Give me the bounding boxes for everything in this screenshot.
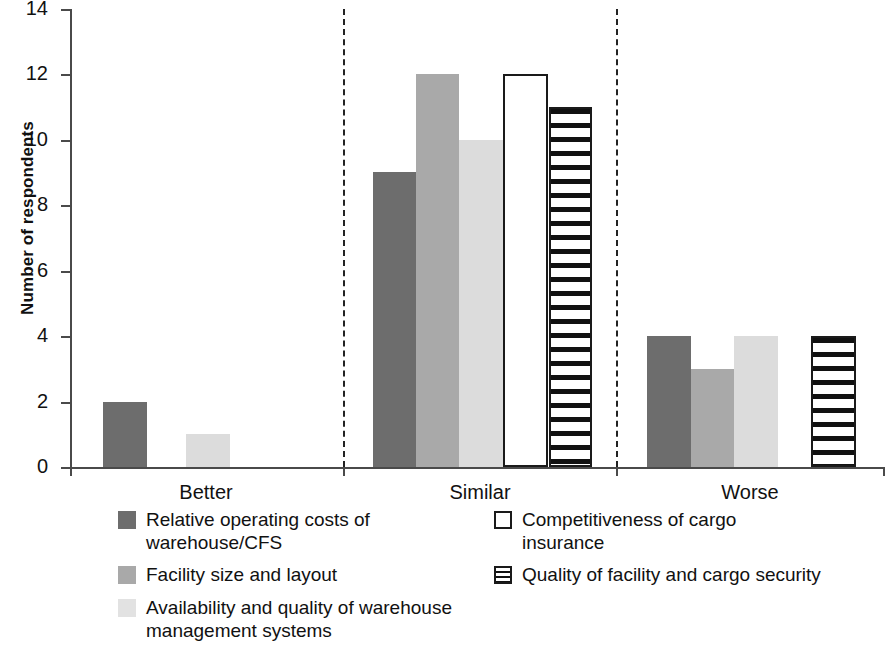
- y-tick-label-12: 12: [4, 63, 48, 83]
- legend-label-quality-facility-cargo-security: Quality of facility and cargo security: [522, 563, 821, 586]
- legend-label-facility-size-layout: Facility size and layout: [146, 563, 337, 586]
- y-tick-label-0: 0: [4, 456, 48, 476]
- bar-similar-relative-operating-costs: [373, 172, 416, 467]
- bar-similar-availability-quality-wms: [459, 140, 503, 467]
- bar-better-relative-operating-costs: [103, 402, 147, 467]
- y-axis-line: [70, 9, 72, 467]
- legend-column-left: Relative operating costs of warehouse/CF…: [118, 508, 488, 651]
- horizontal-stripes-swatch-icon: [494, 566, 512, 584]
- x-axis-line: [70, 467, 885, 469]
- bar-worse-facility-size-layout: [691, 369, 734, 467]
- legend-column-right: Competitiveness of cargo insurance Quali…: [494, 508, 888, 596]
- y-tick-2: [61, 402, 70, 404]
- y-tick-label-14: 14: [4, 0, 48, 18]
- plot-area: 14 12 10 8 6 4 2 0 Better Similar Worse: [70, 9, 885, 467]
- legend-item-competitiveness-cargo-insurance: Competitiveness of cargo insurance: [494, 508, 888, 554]
- legend-label-relative-operating-costs: Relative operating costs of warehouse/CF…: [146, 508, 370, 554]
- bar-worse-quality-facility-cargo-security: [811, 336, 856, 467]
- y-tick-0: [61, 467, 70, 469]
- y-tick-8: [61, 205, 70, 207]
- legend-item-availability-quality-wms: Availability and quality of warehouse ma…: [118, 596, 538, 642]
- legend-label-availability-quality-wms: Availability and quality of warehouse ma…: [146, 596, 452, 642]
- y-tick-14: [61, 9, 70, 11]
- solid-dark-gray-swatch-icon: [118, 511, 136, 529]
- x-tick-better-similar: [343, 467, 345, 476]
- solid-light-gray-swatch-icon: [118, 599, 136, 617]
- legend-label-line2: warehouse/CFS: [146, 531, 370, 554]
- legend-label-line1: Quality of facility and cargo security: [522, 564, 821, 585]
- y-tick-label-2: 2: [4, 391, 48, 411]
- legend-label-line2: management systems: [146, 619, 452, 642]
- x-category-label-worse: Worse: [680, 481, 820, 503]
- group-separator-2: [616, 9, 618, 467]
- outline-white-swatch-icon: [494, 511, 512, 529]
- x-tick-end: [883, 467, 885, 476]
- x-tick-similar-worse: [616, 467, 618, 476]
- x-category-label-similar: Similar: [410, 481, 550, 503]
- y-tick-4: [61, 336, 70, 338]
- solid-medium-gray-swatch-icon: [118, 566, 136, 584]
- bar-better-availability-quality-wms: [186, 434, 230, 467]
- legend-label-line2: insurance: [522, 531, 736, 554]
- group-separator-1: [343, 9, 345, 467]
- bar-similar-facility-size-layout: [416, 74, 459, 467]
- y-tick-label-6: 6: [4, 260, 48, 280]
- y-tick-label-4: 4: [4, 325, 48, 345]
- legend-label-competitiveness-cargo-insurance: Competitiveness of cargo insurance: [522, 508, 736, 554]
- legend-item-quality-facility-cargo-security: Quality of facility and cargo security: [494, 563, 888, 586]
- legend-label-line1: Competitiveness of cargo: [522, 509, 736, 530]
- y-tick-6: [61, 271, 70, 273]
- x-tick-start: [70, 467, 72, 476]
- y-tick-label-10: 10: [4, 129, 48, 149]
- bar-similar-quality-facility-cargo-security: [549, 107, 592, 467]
- bar-chart-figure: Number of respondents 14 12 10 8 6 4 2 0: [0, 0, 895, 655]
- bar-worse-relative-operating-costs: [647, 336, 691, 467]
- chart-legend: Relative operating costs of warehouse/CF…: [118, 508, 888, 648]
- legend-label-line1: Availability and quality of warehouse: [146, 597, 452, 618]
- bar-similar-competitiveness-cargo-insurance: [503, 74, 548, 467]
- x-category-label-better: Better: [136, 481, 276, 503]
- legend-label-line1: Facility size and layout: [146, 564, 337, 585]
- legend-item-facility-size-layout: Facility size and layout: [118, 563, 488, 586]
- legend-item-relative-operating-costs: Relative operating costs of warehouse/CF…: [118, 508, 488, 554]
- legend-label-line1: Relative operating costs of: [146, 509, 370, 530]
- y-tick-12: [61, 74, 70, 76]
- y-tick-10: [61, 140, 70, 142]
- bar-worse-availability-quality-wms: [734, 336, 778, 467]
- y-tick-label-8: 8: [4, 194, 48, 214]
